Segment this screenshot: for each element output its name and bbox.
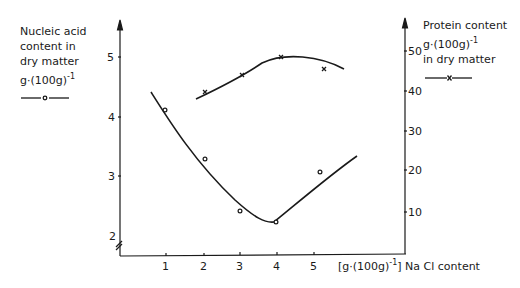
right-tick-20: 20 <box>408 164 422 177</box>
left-tick-5: 5 <box>107 51 114 64</box>
x-axis-label: [g·(100g)-1] Na Cl content <box>338 258 481 273</box>
chart-canvas: 5 4 3 2 1 2 3 4 5 [g·(100g)-1] Na Cl con… <box>0 0 520 288</box>
right-tick-10: 10 <box>408 206 422 219</box>
nucleic-legend-symbol <box>21 96 69 100</box>
left-tick-4: 4 <box>108 111 115 124</box>
protein-legend-symbol <box>425 76 472 81</box>
left-y-axis <box>116 20 123 256</box>
right-y-axis <box>403 18 408 254</box>
x-tick-2: 2 <box>200 260 207 273</box>
nucleic-acid-curve <box>151 92 357 222</box>
left-tick-3: 3 <box>108 170 115 183</box>
protein-points <box>203 55 326 94</box>
right-tick-40: 40 <box>408 85 422 98</box>
left-tick-2: 2 <box>109 230 116 243</box>
x-tick-1: 1 <box>162 260 169 273</box>
x-tick-5: 5 <box>310 260 317 273</box>
right-tick-30: 30 <box>408 125 422 138</box>
x-tick-3: 3 <box>236 260 243 273</box>
x-tick-4: 4 <box>273 260 280 273</box>
protein-curve <box>196 57 344 99</box>
right-tick-50: 50 <box>408 45 422 58</box>
x-axis <box>120 252 406 256</box>
